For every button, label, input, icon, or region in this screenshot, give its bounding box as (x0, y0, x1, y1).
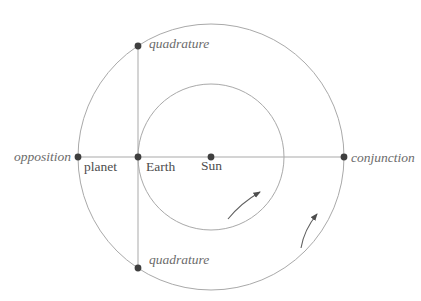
conjunction-dot (341, 154, 348, 161)
opposition-label: opposition (14, 149, 71, 164)
diagram-canvas: opposition conjunction quadrature quadra… (0, 0, 421, 301)
quadrature-bottom-label: quadrature (149, 252, 209, 267)
outer-orbit-direction-arrow-icon (301, 214, 317, 248)
planet-label: planet (84, 159, 117, 174)
quadrature-top-dot (135, 43, 142, 50)
planetary-configurations-diagram: opposition conjunction quadrature quadra… (0, 0, 421, 301)
earth-label: Earth (146, 159, 175, 174)
sun-label: Sun (201, 158, 222, 173)
planet-opposition-dot (75, 154, 82, 161)
earth-dot (135, 154, 142, 161)
quadrature-bottom-dot (135, 265, 142, 272)
conjunction-label: conjunction (351, 150, 415, 165)
quadrature-top-label: quadrature (149, 36, 209, 51)
